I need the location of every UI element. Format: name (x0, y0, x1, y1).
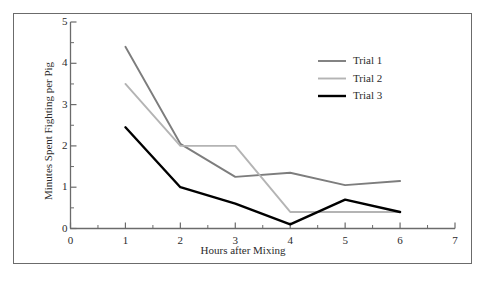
figure-canvas: 012345 01234567 Minutes Spent Fighting p… (0, 0, 486, 282)
series-line-1 (125, 47, 400, 185)
y-tick-label-2: 2 (58, 140, 68, 151)
legend-label-3: Trial 3 (353, 89, 382, 101)
x-axis-title: Hours after Mixing (0, 244, 486, 256)
series-line-2 (125, 84, 400, 212)
y-tick-label-4: 4 (58, 57, 68, 68)
series-line-3 (125, 127, 400, 224)
legend-label-1: Trial 1 (353, 54, 382, 66)
y-tick-label-0: 0 (58, 223, 68, 234)
legend-swatch-group (318, 61, 346, 96)
y-axis-title: Minutes Spent Fighting per Pig (42, 62, 54, 200)
y-tick-label-5: 5 (58, 16, 68, 27)
y-tick-label-1: 1 (58, 181, 68, 192)
axis-lines (70, 22, 455, 229)
legend-label-2: Trial 2 (353, 72, 382, 84)
y-tick-label-3: 3 (58, 99, 68, 110)
